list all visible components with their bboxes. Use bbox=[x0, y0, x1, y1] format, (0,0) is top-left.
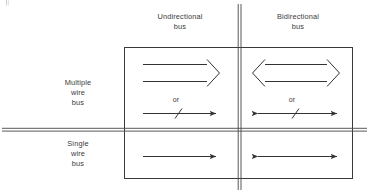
or-label-bidirectional: or bbox=[272, 95, 312, 105]
row-heading-single-wire-bus: Single wire bus bbox=[38, 139, 118, 170]
symbol-hollow-arrow-double bbox=[253, 60, 340, 87]
column-heading-bidirectional: Bidirectional bus bbox=[246, 12, 350, 32]
column-divider-double-line bbox=[238, 4, 241, 190]
or-label-unidirectional: or bbox=[156, 95, 196, 105]
bus-notation-figure: Undirectional bus Bidirectional bus Mult… bbox=[0, 0, 369, 193]
symbol-slashed-arrow-double bbox=[258, 109, 337, 119]
row-divider-double-line bbox=[2, 128, 367, 131]
symbol-hollow-arrow-right bbox=[143, 60, 220, 87]
row-heading-multiple-wire-bus: Multiple wire bus bbox=[38, 78, 118, 109]
crop-mark-artifact bbox=[7, 0, 9, 6]
column-heading-unidirectional: Undirectional bus bbox=[128, 12, 232, 32]
symbol-slashed-arrow-right bbox=[143, 109, 216, 119]
